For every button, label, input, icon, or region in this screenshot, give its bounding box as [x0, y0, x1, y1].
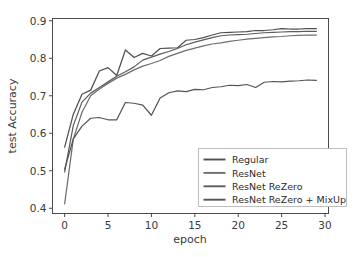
y-axis-title: test Accuracy: [6, 78, 19, 153]
x-tick-label-10: 10: [145, 219, 158, 231]
x-tick-label-15: 15: [188, 219, 201, 231]
x-tick-label-25: 25: [275, 219, 288, 231]
legend-label-resnet-rezero-mixup: ResNet ReZero + MixUp: [232, 194, 346, 205]
y-tick-label-0.9: 0.9: [30, 15, 47, 27]
y-tick-label-0.6: 0.6: [30, 127, 47, 139]
legend-label-resnet-rezero: ResNet ReZero: [232, 181, 303, 192]
y-axis-tick-labels: 0.40.50.60.70.80.9: [30, 15, 47, 215]
x-axis-title: epoch: [173, 233, 207, 246]
x-tick-label-30: 30: [318, 219, 331, 231]
x-axis-tick-labels: 051015202530: [61, 219, 331, 231]
line-chart: 051015202530 0.40.50.60.70.80.9 epoch te…: [0, 0, 358, 257]
y-tick-label-0.8: 0.8: [30, 52, 47, 64]
x-tick-label-0: 0: [61, 219, 68, 231]
chart-figure: 051015202530 0.40.50.60.70.80.9 epoch te…: [0, 0, 358, 257]
chart-legend: RegularResNetResNet ReZeroResNet ReZero …: [199, 149, 347, 207]
y-tick-label-0.5: 0.5: [30, 165, 47, 177]
x-tick-label-20: 20: [232, 219, 245, 231]
x-tick-label-5: 5: [105, 219, 112, 231]
y-tick-label-0.4: 0.4: [30, 202, 47, 214]
y-tick-label-0.7: 0.7: [30, 90, 47, 102]
series-line-regular: [65, 29, 317, 148]
y-axis-ticks: [49, 21, 53, 209]
legend-label-resnet: ResNet: [232, 168, 266, 179]
legend-label-regular: Regular: [232, 154, 269, 165]
x-axis-ticks: [65, 214, 325, 218]
